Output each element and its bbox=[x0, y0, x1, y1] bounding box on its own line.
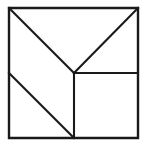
tangram-diagram bbox=[0, 0, 146, 147]
piece-square-lower-right bbox=[74, 73, 138, 138]
tangram-figure-container bbox=[0, 0, 146, 147]
